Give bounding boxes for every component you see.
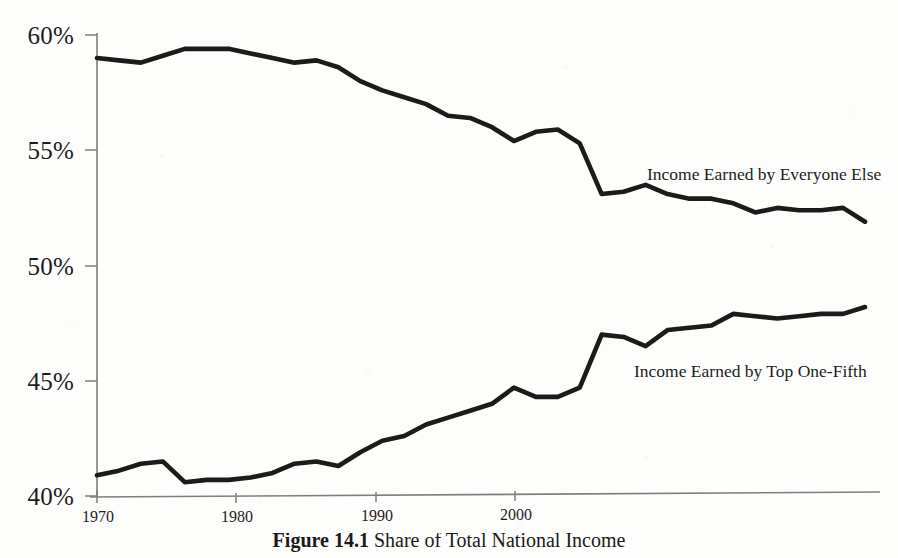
- y-tick-label-40: 40%: [28, 483, 74, 510]
- figure-container: 60% 55% 50% 45% 40% 1970 1980 1990 2000 …: [0, 0, 898, 558]
- x-tick-label-2000: 2000: [500, 506, 532, 523]
- figure-caption-band: Figure 14.1 Share of Total National Inco…: [0, 533, 898, 558]
- y-axis-ticks: [85, 35, 97, 496]
- figure-caption: Figure 14.1 Share of Total National Inco…: [0, 533, 898, 552]
- y-tick-label-50: 50%: [28, 253, 74, 280]
- series-line-everyone-else: [97, 49, 865, 222]
- series-line-top-one-fifth: [97, 307, 865, 482]
- line-chart-plot: 60% 55% 50% 45% 40% 1970 1980 1990 2000 …: [0, 0, 898, 558]
- x-axis-line: [90, 492, 880, 497]
- y-tick-label-55: 55%: [28, 137, 74, 164]
- annotation-top-one-fifth: Income Earned by Top One-Fifth: [634, 361, 867, 381]
- x-tick-label-1970: 1970: [82, 508, 114, 525]
- y-tick-label-45: 45%: [28, 368, 74, 395]
- figure-caption-body: Share of Total National Income: [374, 533, 625, 551]
- y-tick-label-60: 60%: [28, 22, 74, 49]
- x-tick-label-1980: 1980: [221, 508, 253, 525]
- x-tick-label-1990: 1990: [361, 507, 393, 524]
- figure-caption-label: Figure 14.1: [273, 533, 369, 551]
- annotation-everyone-else: Income Earned by Everyone Else: [647, 164, 881, 184]
